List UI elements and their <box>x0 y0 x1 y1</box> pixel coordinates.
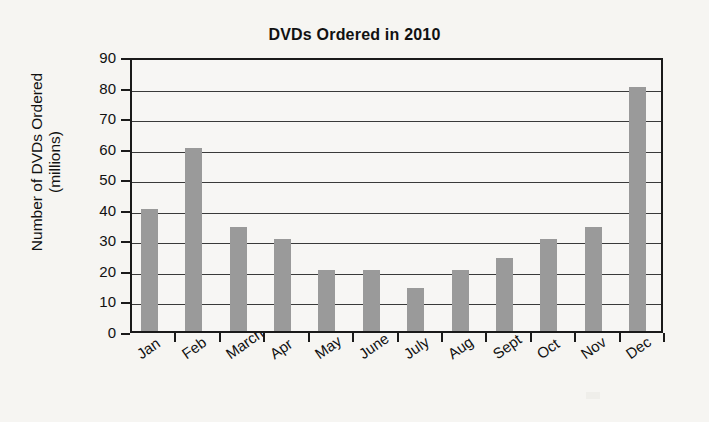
x-axis-tick <box>619 333 621 342</box>
x-axis-tick <box>174 333 176 342</box>
y-axis-tick <box>121 272 130 274</box>
y-axis-tick <box>121 89 130 91</box>
x-axis-tick <box>485 333 487 342</box>
y-axis-tick-label: 20 <box>76 264 116 279</box>
gridline <box>132 213 661 214</box>
y-axis-tick <box>121 211 130 213</box>
x-axis-tick-label: July <box>401 334 431 362</box>
chart-title: DVDs Ordered in 2010 <box>0 26 709 44</box>
bar <box>185 148 202 331</box>
y-axis-tick <box>121 241 130 243</box>
scan-artifact <box>586 392 600 399</box>
gridline <box>132 304 661 305</box>
x-axis-tick <box>308 333 310 342</box>
x-axis-tick <box>219 333 221 342</box>
x-axis-tick-label: Oct <box>534 336 562 362</box>
x-axis-tick-label: Nov <box>578 334 608 362</box>
bar <box>585 227 602 331</box>
gridline <box>132 121 661 122</box>
bar <box>274 239 291 331</box>
x-axis-tick <box>530 333 532 342</box>
x-axis-tick <box>441 333 443 342</box>
y-axis-tick-label: 80 <box>76 81 116 96</box>
chart-figure: DVDs Ordered in 2010 Number of DVDs Orde… <box>0 0 709 422</box>
x-axis-tick-label: June <box>356 330 391 361</box>
bar <box>540 239 557 331</box>
x-axis-tick <box>663 333 665 342</box>
gridline <box>132 182 661 183</box>
x-axis-tick-label: Dec <box>623 334 653 362</box>
gridline <box>132 243 661 244</box>
bar <box>496 258 513 331</box>
x-axis-tick-label: May <box>312 333 344 362</box>
bar <box>452 270 469 331</box>
y-axis-tick <box>121 302 130 304</box>
y-axis-tick-label: 60 <box>76 142 116 157</box>
bar <box>230 227 247 331</box>
y-axis-tick-label: 30 <box>76 233 116 248</box>
y-axis-title-line-1: Number of DVDs Ordered <box>28 22 46 302</box>
y-axis-tick <box>121 58 130 60</box>
plot-area <box>130 58 663 333</box>
y-axis-tick <box>121 150 130 152</box>
y-axis-tick-label: 90 <box>76 50 116 65</box>
y-axis-tick-label: 0 <box>76 325 116 340</box>
y-axis-title: Number of DVDs Ordered (millions) <box>28 22 68 302</box>
y-axis-tick <box>121 180 130 182</box>
x-axis-tick-label: Jan <box>134 335 162 361</box>
gridline <box>132 91 661 92</box>
bar <box>629 87 646 331</box>
y-axis-tick-label: 40 <box>76 203 116 218</box>
x-axis-tick <box>397 333 399 342</box>
y-axis-title-line-2: (millions) <box>46 22 64 302</box>
y-axis-tick-label: 50 <box>76 172 116 187</box>
x-axis-tick-label: Apr <box>267 336 295 362</box>
bar <box>363 270 380 331</box>
y-axis-tick-label: 10 <box>76 294 116 309</box>
y-axis-tick <box>121 119 130 121</box>
bar <box>318 270 335 331</box>
y-axis-tick-label: 70 <box>76 111 116 126</box>
x-axis-tick <box>352 333 354 342</box>
bar <box>407 288 424 331</box>
y-axis-tick <box>121 333 130 335</box>
x-axis-tick <box>574 333 576 342</box>
bar <box>141 209 158 331</box>
x-axis-tick-label: Sept <box>490 331 524 361</box>
gridline <box>132 274 661 275</box>
x-axis-tick-label: Feb <box>179 334 209 361</box>
gridline <box>132 152 661 153</box>
x-axis-tick-label: Aug <box>445 334 475 362</box>
